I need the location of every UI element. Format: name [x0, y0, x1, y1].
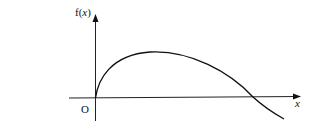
function-graph: f(x) x O [0, 0, 316, 131]
y-axis-label: f(x) [75, 6, 91, 19]
origin-label: O [81, 103, 89, 115]
function-curve [96, 52, 285, 119]
x-axis-label: x [294, 97, 300, 109]
x-axis [69, 97, 300, 99]
